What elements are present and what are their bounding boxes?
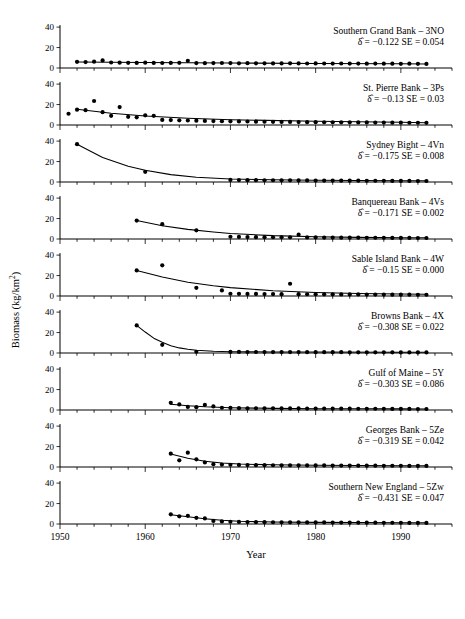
data-point [331, 292, 335, 296]
data-point [228, 292, 232, 296]
y-tick-label: 40 [45, 307, 55, 317]
data-point [373, 407, 377, 411]
data-point [245, 61, 249, 65]
x-axis-label: Year [246, 549, 266, 560]
data-point [305, 350, 309, 354]
data-point [322, 406, 326, 410]
y-tick-label: 0 [50, 177, 55, 187]
data-point [390, 236, 394, 240]
data-point [262, 406, 266, 410]
data-point [220, 288, 224, 292]
data-point [186, 118, 190, 122]
panel-stat-label: δ̂ = −0.15 SE = 0.000 [362, 265, 444, 275]
data-point [186, 59, 190, 63]
data-point [297, 406, 301, 410]
data-point [416, 62, 420, 66]
data-point [177, 118, 181, 122]
data-point [322, 520, 326, 524]
data-point [331, 120, 335, 124]
data-point [416, 179, 420, 183]
data-point [314, 235, 318, 239]
data-point [245, 350, 249, 354]
data-point [382, 120, 386, 124]
data-point [322, 178, 326, 182]
data-point [194, 228, 198, 232]
y-tick-label: 0 [50, 519, 55, 529]
data-point [339, 463, 343, 467]
y-tick-label: 40 [45, 79, 55, 89]
data-point [288, 120, 292, 124]
data-point [416, 407, 420, 411]
data-point [279, 61, 283, 65]
data-point [373, 350, 377, 354]
multi-panel-biomass-chart: 02040Southern Grand Bank – 3NOδ̂ = −0.12… [0, 0, 465, 619]
data-point [407, 407, 411, 411]
data-point [237, 178, 241, 182]
data-point [279, 120, 283, 124]
data-point [399, 121, 403, 125]
data-point [135, 115, 139, 119]
data-point [365, 236, 369, 240]
panel-region-label: Browns Bank – 4X [371, 311, 444, 321]
panel-region-label: Sydney Bight – 4Vn [366, 140, 444, 150]
data-point [348, 350, 352, 354]
panel-2: 02040St. Pierre Bank – 3Psδ̂ = −0.13 SE … [45, 79, 452, 130]
data-point [75, 142, 79, 146]
data-point [271, 520, 275, 524]
data-point [220, 61, 224, 65]
data-point [356, 179, 360, 183]
y-tick-label: 40 [45, 478, 55, 488]
data-point [356, 350, 360, 354]
x-tick-label: 1950 [51, 532, 70, 542]
data-point [399, 464, 403, 468]
data-point [211, 462, 215, 466]
data-point [399, 407, 403, 411]
data-point [339, 407, 343, 411]
data-point [237, 235, 241, 239]
panel-4: 02040Banquereau Bank – 4Vsδ̂ = −0.171 SE… [45, 193, 452, 244]
y-tick-label: 0 [50, 348, 55, 358]
data-point [416, 521, 420, 525]
data-point [373, 62, 377, 66]
data-point [177, 514, 181, 518]
y-tick-label: 20 [45, 442, 55, 452]
data-point [382, 62, 386, 66]
data-point [399, 236, 403, 240]
data-point [322, 463, 326, 467]
data-point [382, 521, 386, 525]
data-point [262, 520, 266, 524]
data-point [228, 61, 232, 65]
panel-region-label: Georges Bank – 5Ze [366, 425, 444, 435]
y-tick-label: 0 [50, 462, 55, 472]
y-tick-label: 20 [45, 328, 55, 338]
panel-1: 02040Southern Grand Bank – 3NOδ̂ = −0.12… [45, 22, 452, 73]
data-point [382, 350, 386, 354]
data-point [348, 407, 352, 411]
data-point [416, 293, 420, 297]
panel-5: 02040Sable Island Bank – 4Wδ̂ = −0.15 SE… [45, 250, 452, 301]
data-point [160, 61, 164, 65]
data-point [305, 120, 309, 124]
data-point [237, 292, 241, 296]
panel-stat-label: δ̂ = −0.319 SE = 0.042 [358, 436, 445, 446]
data-point [305, 520, 309, 524]
data-point [160, 118, 164, 122]
y-tick-label: 0 [50, 120, 55, 130]
data-point [118, 61, 122, 65]
data-point [365, 464, 369, 468]
panel-region-label: Southern New England – 5Zw [328, 482, 444, 492]
data-point [331, 350, 335, 354]
data-point [143, 113, 147, 117]
data-point [254, 120, 258, 124]
data-point [288, 463, 292, 467]
data-point [322, 350, 326, 354]
data-point [314, 520, 318, 524]
data-point [279, 292, 283, 296]
data-point [373, 179, 377, 183]
data-point [314, 463, 318, 467]
data-point [356, 464, 360, 468]
data-point [356, 62, 360, 66]
data-point [220, 462, 224, 466]
data-point [143, 170, 147, 174]
y-tick-label: 40 [45, 421, 55, 431]
